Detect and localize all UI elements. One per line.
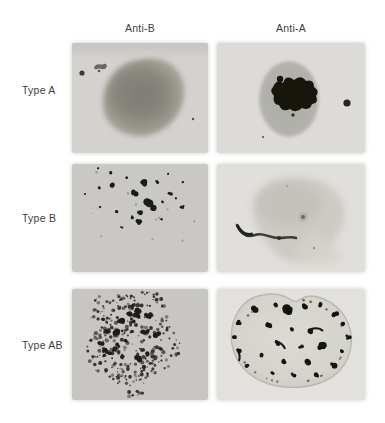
panel-type-b-anti-b: [72, 164, 208, 272]
panel-image: [72, 43, 208, 153]
panel-image: [217, 43, 365, 153]
panel-image: [72, 164, 208, 272]
panel-image: [217, 289, 365, 400]
panel-type-a-anti-a: [217, 43, 365, 153]
panel-type-b-anti-a: [217, 164, 365, 272]
panel-type-ab-anti-b: [72, 289, 208, 400]
panel-image: [72, 289, 208, 400]
column-header-anti-a: Anti-A: [217, 22, 365, 35]
blood-typing-figure: Anti-B Anti-A Type A Type B Type AB: [0, 0, 385, 423]
panel-type-a-anti-b: [72, 43, 208, 153]
panel-type-ab-anti-a: [217, 289, 365, 400]
panel-image: [217, 164, 365, 272]
column-header-anti-b: Anti-B: [72, 22, 208, 35]
